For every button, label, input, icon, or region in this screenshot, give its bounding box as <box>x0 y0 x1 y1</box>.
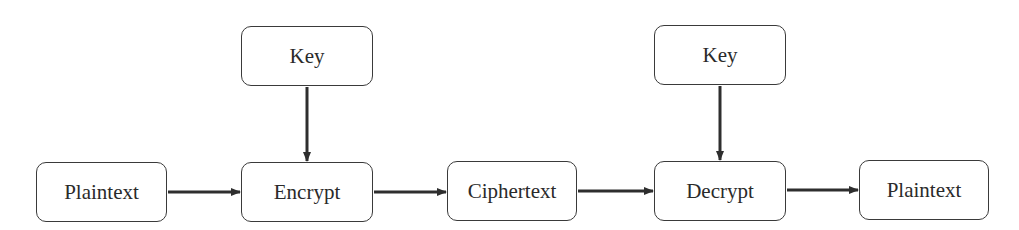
node-key-encrypt: Key <box>241 26 373 86</box>
encryption-flow-diagram: Plaintext Key Encrypt Ciphertext Key Dec… <box>0 0 1019 230</box>
node-plaintext-input: Plaintext <box>36 162 167 222</box>
node-ciphertext: Ciphertext <box>447 161 577 221</box>
node-encrypt: Encrypt <box>241 162 373 222</box>
node-plaintext-output: Plaintext <box>859 160 989 220</box>
node-decrypt: Decrypt <box>654 161 786 221</box>
node-key-decrypt: Key <box>654 25 786 85</box>
